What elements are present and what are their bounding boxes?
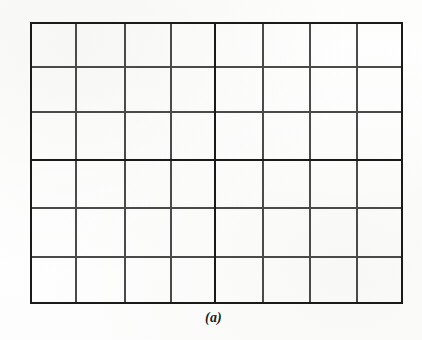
grid-diagram xyxy=(0,0,422,340)
emphasized-divider-lines xyxy=(31,23,402,303)
vertical-grid-lines xyxy=(76,23,357,303)
grid-outer-border xyxy=(31,23,402,303)
figure-container: (a) xyxy=(0,0,422,340)
caption-label: (a) xyxy=(200,310,222,326)
horizontal-grid-lines xyxy=(31,67,402,257)
figure-caption: (a) xyxy=(0,308,422,326)
